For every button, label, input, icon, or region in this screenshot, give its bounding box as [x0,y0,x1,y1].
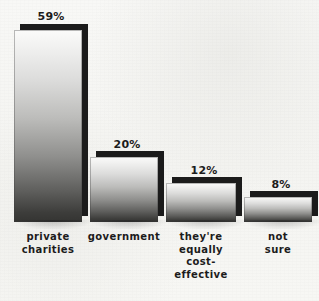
bar-face [90,157,158,222]
bar-category-label-government: government [80,231,168,244]
category-line: government [80,231,168,244]
bar-category-label-private-charities: private charities [4,231,92,256]
bar-value-label: 8% [244,178,318,191]
bar-category-label-equally-cost-effective: they're equally cost- effective [157,231,245,281]
plot-area: 59% private charities 20% government 12%… [0,0,319,301]
bar-column-not-sure[interactable] [244,197,312,222]
bar-value-label: 20% [90,138,164,151]
category-line: charities [4,244,92,257]
bar-face [244,197,312,222]
category-line: effective [157,269,245,282]
bar-value-label: 12% [166,164,242,177]
category-line: sure [234,244,319,257]
bar-category-label-not-sure: not sure [234,231,319,256]
category-line: they're [157,231,245,244]
bar-column-equally-cost-effective[interactable] [166,183,236,222]
bar-face [14,30,82,222]
category-line: private [4,231,92,244]
bar-value-label: 59% [14,10,88,23]
category-line: cost- [157,256,245,269]
category-line: not [234,231,319,244]
bar-column-private-charities[interactable] [14,30,82,222]
category-line: equally [157,244,245,257]
bar-face [166,183,236,222]
bar-chart: 59% private charities 20% government 12%… [0,0,319,301]
bar-column-government[interactable] [90,157,158,222]
